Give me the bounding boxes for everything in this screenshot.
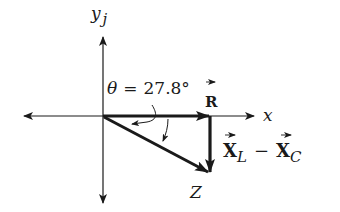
reactance-label-group: XL−XC — [223, 135, 302, 166]
y-axis-symbol: y — [90, 3, 101, 23]
xl-symbol: X — [223, 140, 237, 161]
reactance-operator: − — [254, 140, 269, 161]
angle-label: θ=27.8° — [107, 78, 190, 98]
angle-value: 27.8° — [144, 78, 190, 98]
resistance-label: R — [205, 93, 218, 111]
x-axis-label: x — [263, 105, 273, 125]
xc-symbol: X — [276, 140, 290, 161]
phasor-diagram: x yj θ=27.8° R XL−XC Z — [0, 0, 340, 212]
angle-equals: = — [123, 78, 137, 98]
angle-arc-arrow — [163, 119, 168, 141]
y-axis-imaginary-unit: j — [100, 10, 108, 28]
impedance-vector — [104, 117, 208, 172]
theta-symbol: θ — [107, 78, 117, 98]
impedance-label: Z — [189, 182, 203, 202]
y-axis-label: yj — [90, 3, 108, 28]
reactance-label: XL−XC — [223, 140, 302, 166]
xc-subscript: C — [290, 148, 302, 166]
xl-subscript: L — [236, 148, 247, 166]
resistance-label-group: R — [205, 82, 218, 111]
